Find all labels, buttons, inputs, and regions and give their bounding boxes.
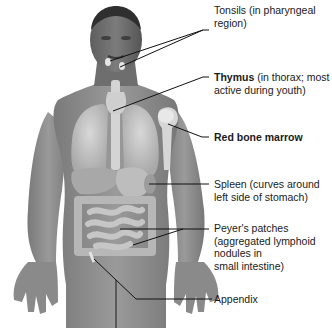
label-red-bone-marrow: Red bone marrow (214, 131, 303, 144)
thymus (106, 92, 126, 114)
thymus-bold: Thymus (214, 71, 254, 83)
left-hand (174, 262, 218, 314)
right-hand (14, 262, 58, 314)
label-thymus: Thymus (in thorax; most active during yo… (214, 71, 330, 96)
lymphoid-organs-illustration (0, 0, 332, 328)
label-tonsils: Tonsils (in pharyngeal region) (214, 4, 316, 29)
label-spleen: Spleen (curves around left side of stoma… (214, 178, 320, 203)
tonsil-left (105, 58, 111, 66)
label-appendix: Appendix (214, 293, 258, 306)
label-peyers-patches: Peyer's patches (aggregated lymphoid nod… (214, 222, 316, 272)
